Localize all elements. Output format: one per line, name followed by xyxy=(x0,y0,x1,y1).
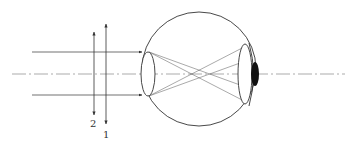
label-lens-1: 1 xyxy=(103,129,109,140)
label-lens-2: 2 xyxy=(90,118,96,129)
eye-optics-diagram: 2 1 xyxy=(0,0,359,145)
eye-lens xyxy=(141,52,155,96)
macula-dark-spot xyxy=(251,62,259,86)
retina xyxy=(238,44,252,104)
